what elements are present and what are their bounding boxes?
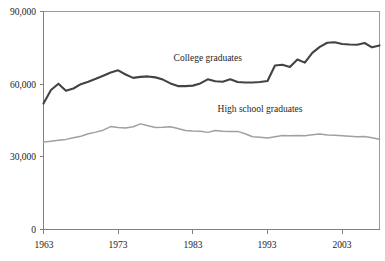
y-axis-tick-labels: 0 30,000 60,000 90,000 [10, 7, 36, 235]
x-tick-label-1963: 1963 [35, 240, 54, 250]
y-tick-label-60000: 60,000 [10, 80, 36, 90]
y-tick-label-90000: 90,000 [10, 7, 36, 17]
x-tick-label-1973: 1973 [109, 240, 128, 250]
x-tick-label-2003: 2003 [333, 240, 352, 250]
y-tick-label-30000: 30,000 [10, 152, 36, 162]
earnings-line-chart: 0 30,000 60,000 90,000 1963 1973 1983 19… [0, 0, 385, 261]
series-label-college-graduates: College graduates [174, 53, 243, 63]
y-tick-label-0: 0 [31, 225, 36, 235]
series-annotations: College graduates High school graduates [174, 53, 303, 114]
x-axis-tick-labels: 1963 1973 1983 1993 2003 [35, 240, 352, 250]
series-line-college-graduates [44, 42, 380, 103]
chart-svg: 0 30,000 60,000 90,000 1963 1973 1983 19… [0, 0, 385, 261]
x-tick-label-1993: 1993 [258, 240, 277, 250]
y-axis-ticks [40, 12, 44, 230]
series-line-high-school-graduates [44, 124, 380, 142]
series-label-high-school-graduates: High school graduates [218, 104, 303, 114]
x-tick-label-1983: 1983 [184, 240, 203, 250]
plot-frame [44, 12, 380, 230]
x-axis-ticks [44, 230, 343, 234]
